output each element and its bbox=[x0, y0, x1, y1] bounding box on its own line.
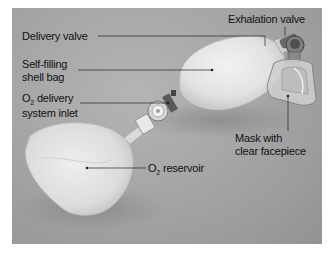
label-mask-line1: Mask with bbox=[235, 132, 306, 145]
self-filling-shell-bag bbox=[180, 36, 284, 110]
bvm-illustration bbox=[12, 8, 322, 244]
label-o2-delivery-inlet: O2 delivery system inlet bbox=[22, 92, 78, 119]
label-shell-bag: Self-filling shell bag bbox=[22, 58, 67, 83]
label-o2-inlet-line2: system inlet bbox=[22, 107, 78, 120]
label-mask-line2: clear facepiece bbox=[235, 145, 306, 158]
o2-subscript: 2 bbox=[156, 169, 160, 176]
label-mask: Mask with clear facepiece bbox=[235, 132, 306, 157]
label-exhalation-valve: Exhalation valve bbox=[228, 13, 305, 26]
reservoir-rest: reservoir bbox=[160, 162, 204, 174]
label-shell-bag-line2: shell bag bbox=[22, 71, 67, 84]
label-delivery-valve: Delivery valve bbox=[22, 30, 88, 43]
mask-facepiece bbox=[267, 59, 316, 105]
o2-inlet-rest: delivery bbox=[34, 92, 73, 104]
label-o2-reservoir: O2 reservoir bbox=[148, 162, 204, 177]
label-o2-inlet-line1: O2 delivery bbox=[22, 92, 78, 107]
bvm-photo bbox=[12, 8, 322, 244]
o2-subscript: 2 bbox=[30, 99, 34, 106]
label-shell-bag-line1: Self-filling bbox=[22, 58, 67, 71]
